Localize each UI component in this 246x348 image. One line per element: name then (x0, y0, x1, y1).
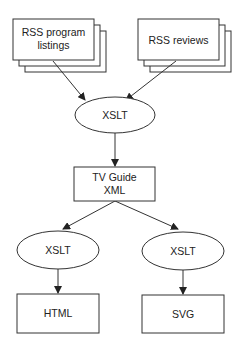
edge-tvguide-to-xslt-right (115, 201, 178, 229)
xslt-top-node: XSLT (75, 97, 155, 133)
edge-tvguide-to-xslt-left (63, 201, 115, 229)
html-node: HTML (17, 294, 99, 333)
rss-listings-label-line2: listings (37, 39, 69, 51)
xslt-right-node: XSLT (142, 232, 224, 270)
tv-guide-label-line1: TV Guide (92, 171, 137, 183)
xslt-right-label: XSLT (170, 245, 196, 257)
svg-node: SVG (142, 295, 224, 333)
rss-listings-node: RSS program listings (13, 19, 106, 72)
tv-guide-label-line2: XML (104, 184, 126, 196)
rss-listings-label-line1: RSS program (22, 26, 86, 38)
rss-reviews-label: RSS reviews (148, 34, 208, 46)
html-label: HTML (44, 307, 73, 319)
flow-diagram: RSS program listings RSS reviews XSLT TV… (0, 0, 246, 348)
xslt-left-label: XSLT (45, 244, 71, 256)
svg-label: SVG (172, 308, 194, 320)
tv-guide-node: TV Guide XML (74, 167, 155, 201)
xslt-top-label: XSLT (102, 109, 128, 121)
xslt-left-node: XSLT (17, 231, 99, 269)
rss-reviews-node: RSS reviews (138, 19, 231, 72)
